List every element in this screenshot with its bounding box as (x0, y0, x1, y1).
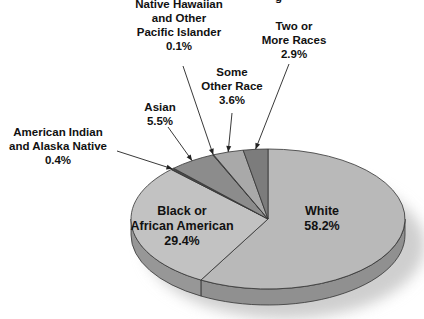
label-white-name: White (304, 204, 339, 219)
label-native-hawaiian: Native Hawaiian and Other Pacific Island… (135, 0, 223, 53)
label-two-or-more-name-1: Two or (262, 19, 327, 33)
label-white-value: 58.2% (304, 219, 339, 234)
label-asian-name: Asian (144, 100, 175, 114)
label-white: White 58.2% (304, 204, 339, 234)
label-american-indian-value: 0.4% (9, 153, 107, 167)
truncated-top-text: g (275, 0, 282, 3)
label-some-other-race: Some Other Race 3.6% (201, 65, 262, 107)
label-some-other-race-value: 3.6% (201, 93, 262, 107)
label-native-hawaiian-name-3: Pacific Islander (135, 25, 223, 39)
label-native-hawaiian-name-1: Native Hawaiian (135, 0, 223, 11)
leader-arrow-2 (166, 165, 172, 170)
label-two-or-more-value: 2.9% (262, 47, 327, 61)
label-native-hawaiian-name-2: and Other (135, 11, 223, 25)
label-some-other-race-name-1: Some (201, 65, 262, 79)
label-black-value: 29.4% (130, 234, 233, 249)
leader-arrow-5 (226, 146, 231, 152)
label-black: Black or African American 29.4% (130, 204, 233, 249)
label-some-other-race-name-2: Other Race (201, 79, 262, 93)
label-american-indian-name-1: American Indian (9, 125, 107, 139)
label-asian-value: 5.5% (144, 114, 175, 128)
label-two-or-more-name-2: More Races (262, 33, 327, 47)
label-american-indian-name-2: and Alaska Native (9, 139, 107, 153)
leader-arrow-4 (209, 148, 214, 154)
label-american-indian: American Indian and Alaska Native 0.4% (9, 125, 107, 167)
leader-line-3 (168, 127, 192, 161)
leader-arrow-6 (255, 143, 260, 149)
label-native-hawaiian-value: 0.1% (135, 39, 223, 53)
label-asian: Asian 5.5% (144, 100, 175, 128)
label-two-or-more: Two or More Races 2.9% (262, 19, 327, 61)
label-black-name-2: African American (130, 219, 233, 234)
leader-arrow-3 (187, 154, 193, 160)
label-black-name-1: Black or (130, 204, 233, 219)
leader-line-2 (117, 151, 172, 169)
